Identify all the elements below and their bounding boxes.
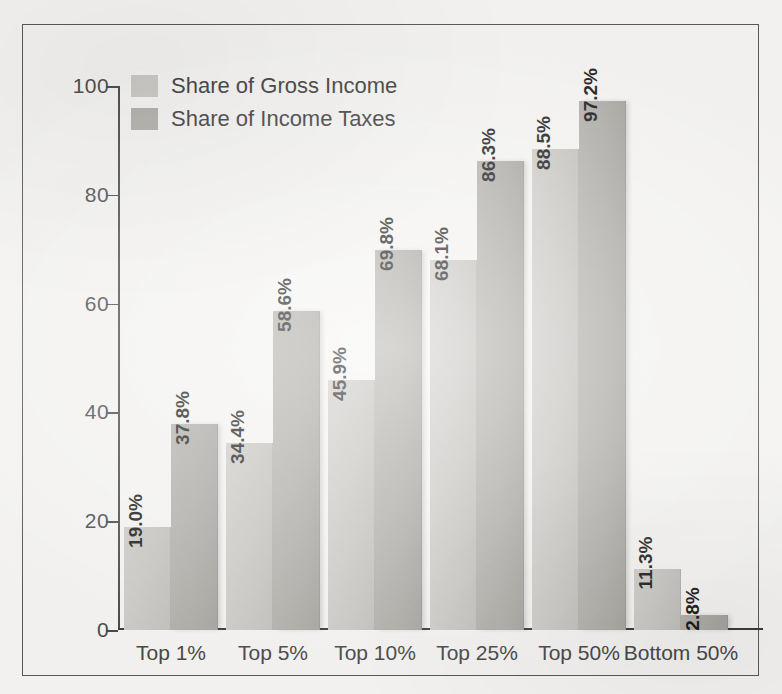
bar-value-label: 45.9% xyxy=(329,347,351,401)
bar-group: 88.5%97.2%Top 50% xyxy=(532,86,626,630)
bar-series-1: 45.9% xyxy=(328,380,375,630)
y-tick-label: 40 xyxy=(85,400,109,424)
bar-value-label: 68.1% xyxy=(431,227,453,281)
x-axis-category-label: Top 10% xyxy=(334,641,416,665)
y-tick-label: 0 xyxy=(97,618,109,642)
plot-area: 100 80 60 40 20 0 19.0%3 xyxy=(118,86,758,630)
bar-series-2: 69.8% xyxy=(375,250,422,630)
legend-label-series-2: Share of Income Taxes xyxy=(171,106,396,132)
bar-group: 11.3%2.8%Bottom 50% xyxy=(634,86,728,630)
bar-series-2: 86.3% xyxy=(477,161,524,630)
bar-value-label: 34.4% xyxy=(227,410,249,464)
bar-value-label: 11.3% xyxy=(635,536,657,589)
bar-series-1: 88.5% xyxy=(532,149,579,630)
bar-value-label: 2.8% xyxy=(682,587,704,630)
bar-group: 19.0%37.8%Top 1% xyxy=(124,86,218,630)
legend-item: Share of Gross Income xyxy=(131,69,397,102)
bar-series-2: 37.8% xyxy=(171,424,218,630)
bar-value-label: 58.6% xyxy=(274,278,296,332)
chart-page: Share of Gross Income Share of Income Ta… xyxy=(0,0,782,694)
bar-series-2: 58.6% xyxy=(273,311,320,630)
bar-series-1: 68.1% xyxy=(430,260,477,630)
series-2-swatch xyxy=(131,108,158,130)
bar-group: 34.4%58.6%Top 5% xyxy=(226,86,320,630)
y-tick-label: 20 xyxy=(85,509,109,533)
y-axis-line xyxy=(118,86,120,630)
x-axis-category-label: Top 1% xyxy=(136,641,206,665)
bar-value-label: 97.2% xyxy=(580,68,602,122)
x-axis-category-label: Bottom 50% xyxy=(624,641,738,665)
y-tick-label: 100 xyxy=(73,74,109,98)
series-1-swatch xyxy=(131,75,158,97)
bar-series-1: 11.3% xyxy=(634,569,681,630)
chart-legend: Share of Gross Income Share of Income Ta… xyxy=(131,69,397,135)
x-axis-category-label: Top 50% xyxy=(538,641,620,665)
bar-value-label: 86.3% xyxy=(478,128,500,182)
x-axis-category-label: Top 25% xyxy=(436,641,518,665)
legend-item: Share of Income Taxes xyxy=(131,102,397,135)
bar-group: 45.9%69.8%Top 10% xyxy=(328,86,422,630)
x-axis-category-label: Top 5% xyxy=(238,641,308,665)
legend-label-series-1: Share of Gross Income xyxy=(171,73,397,99)
chart-frame: Share of Gross Income Share of Income Ta… xyxy=(22,24,759,676)
bar-series-2: 2.8% xyxy=(681,615,728,630)
bar-value-label: 37.8% xyxy=(172,391,194,445)
bar-group: 68.1%86.3%Top 25% xyxy=(430,86,524,630)
bar-series-2: 97.2% xyxy=(579,101,626,630)
bar-value-label: 19.0% xyxy=(125,494,147,548)
y-tick-label: 60 xyxy=(85,292,109,316)
bar-series-1: 34.4% xyxy=(226,443,273,630)
bar-series-1: 19.0% xyxy=(124,527,171,630)
y-tick-label: 80 xyxy=(85,183,109,207)
bar-value-label: 69.8% xyxy=(376,217,398,271)
bar-value-label: 88.5% xyxy=(533,116,555,170)
